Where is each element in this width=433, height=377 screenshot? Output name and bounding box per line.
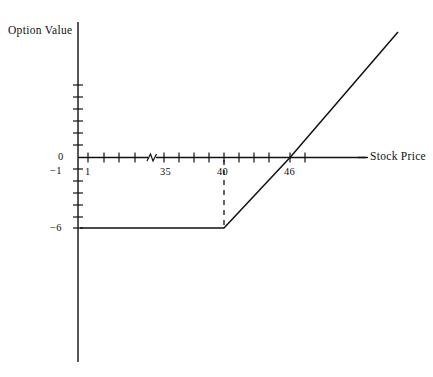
x-tick-label-40: 40	[217, 167, 228, 178]
payoff-line	[80, 32, 398, 228]
x-axis-title: Stock Price	[370, 151, 426, 163]
option-payoff-figure: Option Value Stock Price 0 −1 −6 1 35 40…	[0, 0, 433, 377]
x-tick-label-1: 1	[85, 167, 91, 178]
y-tick-label-minus-6: −6	[50, 223, 62, 234]
y-axis-title: Option Value	[8, 25, 72, 37]
y-tick-label-0: 0	[58, 152, 64, 163]
plot-canvas	[0, 0, 433, 377]
x-tick-label-46: 46	[284, 167, 295, 178]
x-axis-break-mark	[147, 154, 157, 161]
y-tick-label-minus-1: −1	[50, 166, 62, 177]
x-tick-label-35: 35	[160, 167, 171, 178]
